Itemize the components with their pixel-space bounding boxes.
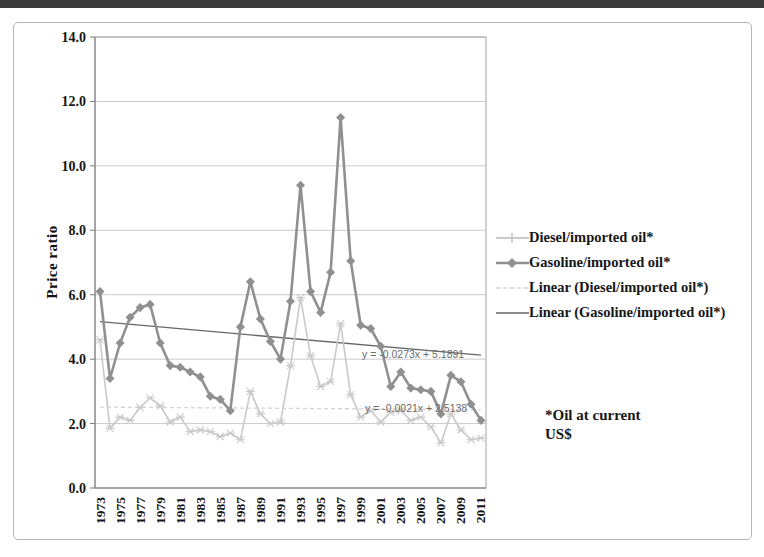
x-tick-label: 1979	[153, 497, 168, 524]
data-point-marker	[477, 435, 486, 442]
data-point-marker	[346, 256, 355, 265]
legend: Diesel/imported oil* Gasoline/imported o…	[496, 228, 725, 322]
data-point-marker	[196, 372, 205, 381]
data-point-marker	[356, 414, 365, 421]
data-point-marker	[206, 392, 215, 401]
data-point-marker	[216, 433, 225, 440]
data-point-marker	[376, 419, 385, 426]
data-point-marker	[286, 297, 295, 306]
data-point-marker	[326, 268, 335, 277]
y-tick-label: 14.0	[62, 30, 87, 45]
data-point-marker	[356, 321, 365, 330]
y-tick-label: 8.0	[69, 223, 87, 238]
data-point-marker	[156, 402, 165, 409]
x-tick-label: 2007	[433, 497, 448, 524]
data-point-marker	[166, 361, 175, 370]
data-point-marker	[166, 419, 175, 426]
data-point-marker	[146, 300, 155, 309]
x-tick-label: 1975	[113, 497, 128, 524]
y-tick-label: 2.0	[69, 417, 87, 432]
x-tick-label: 1981	[173, 497, 188, 524]
x-tick-label: 1995	[313, 497, 328, 524]
data-point-marker	[256, 410, 265, 417]
x-tick-label: 1999	[353, 497, 368, 524]
footnote-line-2: US$	[545, 425, 641, 444]
legend-label: Linear (Diesel/imported oil*)	[529, 279, 708, 296]
data-point-marker	[116, 414, 125, 421]
diesel-trendline-icon	[496, 281, 529, 295]
x-tick-label: 2001	[373, 497, 388, 524]
data-point-marker	[105, 374, 114, 383]
legend-label: Diesel/imported oil*	[529, 229, 653, 246]
legend-label: Gasoline/imported oil*	[529, 254, 670, 271]
data-point-marker	[316, 308, 325, 317]
data-point-marker	[146, 394, 155, 401]
y-tick-label: 6.0	[69, 288, 87, 303]
data-point-marker	[467, 436, 476, 443]
x-tick-label: 2011	[473, 497, 488, 524]
data-point-marker	[416, 414, 425, 421]
data-point-marker	[176, 414, 185, 421]
gasoline-series-line-icon	[496, 256, 529, 270]
data-point-marker	[176, 363, 185, 372]
x-tick-label: 1997	[333, 497, 348, 524]
diesel-series-line-icon	[496, 231, 529, 245]
data-point-marker	[196, 427, 205, 434]
data-point-marker	[126, 417, 135, 424]
data-point-marker	[426, 387, 435, 396]
series-line	[100, 118, 481, 421]
y-tick-label: 10.0	[62, 159, 87, 174]
trendline-equation: y = -0.0021x + 2.5138	[365, 402, 467, 414]
data-point-marker	[186, 367, 195, 376]
data-point-marker	[266, 420, 275, 427]
data-point-marker	[116, 338, 125, 347]
data-point-marker	[406, 417, 415, 424]
x-tick-label: 1987	[233, 497, 248, 524]
x-tick-label: 2003	[393, 497, 408, 524]
plot-border	[95, 37, 486, 488]
data-point-marker	[136, 404, 145, 411]
y-tick-label: 4.0	[69, 352, 87, 367]
data-point-marker	[186, 428, 195, 435]
data-point-marker	[226, 430, 235, 437]
x-tick-label: 1993	[293, 497, 308, 524]
x-tick-label: 1985	[213, 497, 228, 524]
x-tick-label: 2005	[413, 497, 428, 524]
legend-label: Linear (Gasoline/imported oil*)	[529, 304, 725, 321]
data-point-marker	[236, 322, 245, 331]
legend-item-diesel: Diesel/imported oil*	[496, 228, 725, 247]
x-tick-label: 1983	[193, 497, 208, 524]
x-tick-label: 2009	[453, 497, 468, 524]
footnote: *Oil at current US$	[545, 406, 641, 444]
series-line	[100, 298, 481, 443]
chart-page: 0.02.04.06.08.010.012.014.01973197519771…	[0, 0, 764, 557]
data-point-marker	[156, 338, 165, 347]
x-tick-label: 1977	[133, 497, 148, 524]
legend-item-linear-diesel: Linear (Diesel/imported oil*)	[496, 278, 725, 297]
data-point-marker	[296, 181, 305, 190]
x-tick-label: 1973	[93, 497, 108, 524]
data-point-marker	[416, 385, 425, 394]
data-point-marker	[256, 314, 265, 323]
data-point-marker	[206, 428, 215, 435]
y-tick-label: 0.0	[69, 481, 87, 496]
data-point-marker	[456, 427, 465, 434]
legend-item-linear-gasoline: Linear (Gasoline/imported oil*)	[496, 303, 725, 322]
footnote-line-1: *Oil at current	[545, 406, 641, 425]
x-tick-label: 1991	[273, 497, 288, 524]
trendline-equation: y = -0.0273x + 5.1891	[362, 348, 464, 360]
data-point-marker	[246, 277, 255, 286]
data-point-marker	[336, 113, 345, 122]
y-tick-label: 12.0	[62, 94, 87, 109]
data-point-marker	[426, 423, 435, 430]
gasoline-trendline-icon	[496, 306, 529, 320]
x-tick-label: 1989	[253, 497, 268, 524]
y-axis-title: Price ratio	[44, 212, 62, 312]
legend-item-gasoline: Gasoline/imported oil*	[496, 253, 725, 272]
